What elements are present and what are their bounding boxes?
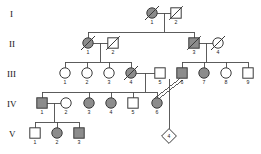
individual-iv-1[interactable] xyxy=(37,98,47,108)
generation-label-I: I xyxy=(10,9,13,19)
id-number-iii-2: 2 xyxy=(86,79,89,85)
id-number-v-3: 3 xyxy=(78,139,81,145)
individual-iv-5[interactable] xyxy=(128,98,138,108)
symbol-circle-female xyxy=(152,98,162,108)
symbol-circle-female xyxy=(61,98,71,108)
generation-label-III: III xyxy=(7,69,16,79)
id-number-ii-1: 1 xyxy=(87,49,90,55)
individual-iii-7[interactable] xyxy=(199,68,209,78)
individual-iii-3[interactable] xyxy=(104,68,114,78)
symbol-square-male xyxy=(128,98,138,108)
individual-iv-6[interactable] xyxy=(152,98,162,108)
consanguineous-line-2 xyxy=(158,80,183,100)
id-number-i-1: 1 xyxy=(151,19,154,25)
pedigree-chart: I II III IV V 1212341234567891234561234 xyxy=(0,0,261,154)
id-number-iii-7: 7 xyxy=(203,79,206,85)
generation-label-V: V xyxy=(9,129,16,139)
symbol-square-male xyxy=(243,68,253,78)
individual-iii-5[interactable] xyxy=(155,68,165,78)
individual-symbols xyxy=(30,6,253,143)
symbol-square-male xyxy=(74,128,84,138)
id-number-ii-2: 2 xyxy=(112,49,115,55)
individual-v-2[interactable] xyxy=(52,128,62,138)
id-number-iv-3: 3 xyxy=(88,109,91,115)
individual-iv-4[interactable] xyxy=(106,98,116,108)
symbol-circle-female xyxy=(84,98,94,108)
id-number-iii-3: 3 xyxy=(108,79,111,85)
id-number-v-1: 1 xyxy=(34,139,37,145)
id-number-iii-5: 5 xyxy=(159,79,162,85)
individual-v-1[interactable] xyxy=(30,128,40,138)
symbol-circle-female xyxy=(106,98,116,108)
symbol-circle-female xyxy=(82,68,92,78)
id-number-iv-2: 2 xyxy=(65,109,68,115)
generation-labels: I II III IV V xyxy=(7,9,17,139)
individual-v-3[interactable] xyxy=(74,128,84,138)
individual-iii-6[interactable] xyxy=(177,68,187,78)
id-number-v-2: 2 xyxy=(56,139,59,145)
id-number-iv-4: 4 xyxy=(110,109,113,115)
individual-iii-9[interactable] xyxy=(243,68,253,78)
symbol-circle-female xyxy=(52,128,62,138)
id-number-ii-3: 3 xyxy=(193,49,196,55)
id-number-iv-6: 6 xyxy=(156,109,159,115)
symbol-square-male xyxy=(177,68,187,78)
id-number-iii-9: 9 xyxy=(247,79,250,85)
symbol-square-male xyxy=(37,98,47,108)
id-number-i-2: 2 xyxy=(175,19,178,25)
symbol-square-male xyxy=(30,128,40,138)
individual-iv-2[interactable] xyxy=(61,98,71,108)
generation-label-II: II xyxy=(9,39,15,49)
individual-iii-8[interactable] xyxy=(221,68,231,78)
symbol-square-male xyxy=(155,68,165,78)
id-number-iii-1: 1 xyxy=(64,79,67,85)
id-number-iii-6: 6 xyxy=(181,79,184,85)
id-number-ii-4: 4 xyxy=(217,49,220,55)
id-number-iv-5: 5 xyxy=(132,109,135,115)
id-number-iii-8: 8 xyxy=(225,79,228,85)
individual-iii-2[interactable] xyxy=(82,68,92,78)
individual-iii-1[interactable] xyxy=(60,68,70,78)
pedigree-canvas: I II III IV V 1212341234567891234561234 xyxy=(0,0,261,154)
generation-label-IV: IV xyxy=(7,99,17,109)
symbol-circle-female xyxy=(221,68,231,78)
id-number-iii-4: 4 xyxy=(130,79,133,85)
id-number-iv-1: 1 xyxy=(41,109,44,115)
individual-iv-3[interactable] xyxy=(84,98,94,108)
symbol-circle-female xyxy=(199,68,209,78)
symbol-circle-female xyxy=(60,68,70,78)
id-number-v-4: 4 xyxy=(168,133,171,139)
symbol-circle-female xyxy=(104,68,114,78)
